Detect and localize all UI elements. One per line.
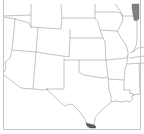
map-container <box>0 0 144 134</box>
us-map <box>0 0 144 134</box>
map-background <box>0 0 144 134</box>
